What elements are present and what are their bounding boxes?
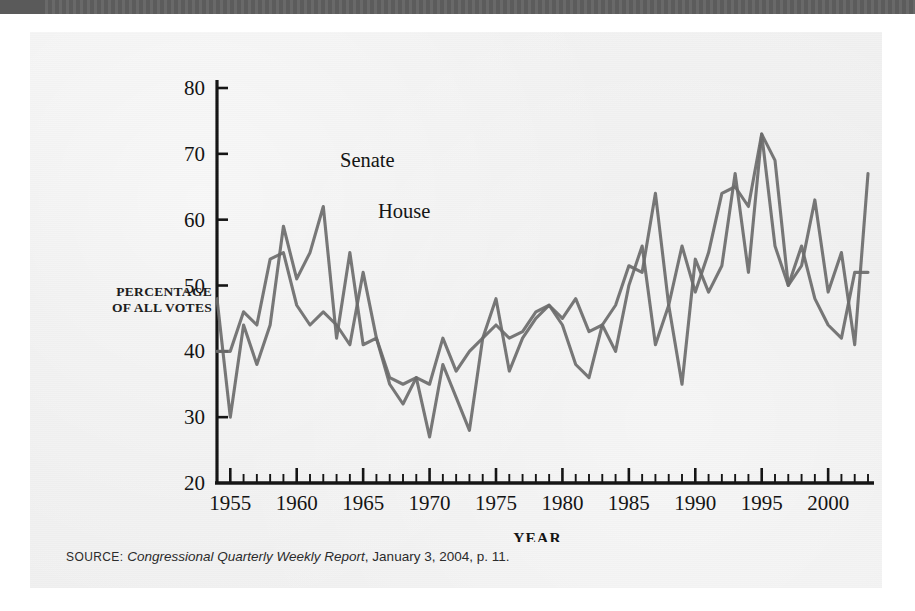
y-axis-title-line2: OF ALL VOTES	[62, 300, 212, 316]
y-tick-label: 20	[184, 471, 205, 495]
source-note: SOURCE: Congressional Quarterly Weekly R…	[66, 549, 509, 564]
y-tick-label: 60	[184, 208, 205, 232]
x-tick-label: 1965	[342, 491, 384, 515]
x-tick-label: 1985	[608, 491, 650, 515]
series-label-senate: Senate	[340, 149, 395, 171]
chart-tick-labels: 2030405060708019551960196519701975198019…	[184, 76, 849, 515]
series-label-house: House	[378, 200, 430, 222]
x-tick-label: 1975	[475, 491, 517, 515]
y-axis-title: PERCENTAGE OF ALL VOTES	[62, 284, 212, 316]
x-tick-label: 1990	[674, 491, 716, 515]
x-tick-label: 1995	[741, 491, 783, 515]
page-body: 2030405060708019551960196519701975198019…	[0, 14, 915, 611]
chart-axes	[215, 80, 874, 483]
x-tick-label: 1955	[209, 491, 251, 515]
source-label: SOURCE:	[66, 550, 123, 564]
y-tick-label: 70	[184, 142, 205, 166]
source-publication: Congressional Quarterly Weekly Report	[127, 549, 365, 564]
chart-series-labels: SenateHouse	[340, 149, 430, 222]
figure-panel: 2030405060708019551960196519701975198019…	[30, 32, 882, 588]
x-tick-label: 1980	[541, 491, 583, 515]
y-axis-title-line1: PERCENTAGE	[62, 284, 212, 300]
series-line-senate	[217, 134, 868, 417]
y-tick-label: 40	[184, 339, 205, 363]
source-citation-rest: , January 3, 2004, p. 11.	[365, 549, 510, 564]
x-axis-title-text: YEAR	[513, 529, 562, 542]
window-top-bar	[0, 0, 915, 14]
x-tick-label: 1960	[276, 491, 318, 515]
series-line-house	[217, 134, 868, 437]
y-tick-label: 30	[184, 405, 205, 429]
y-tick-label: 80	[184, 76, 205, 100]
top-bar-stripe	[45, 0, 915, 14]
chart-series-lines	[217, 134, 868, 437]
chart-x-axis-title: YEAR	[513, 529, 562, 542]
x-tick-label: 1970	[409, 491, 451, 515]
x-tick-label: 2000	[807, 491, 849, 515]
